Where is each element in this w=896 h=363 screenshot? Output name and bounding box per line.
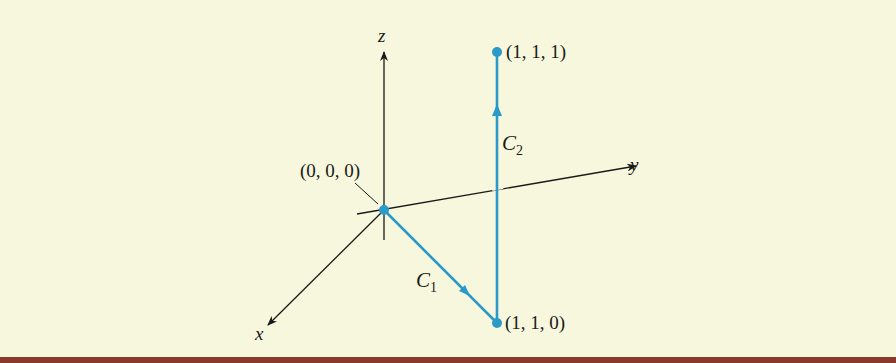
c2-label: C2 <box>502 131 523 158</box>
curve-c1 <box>384 210 497 323</box>
origin-leader-line <box>355 183 378 204</box>
c1-label: C1 <box>416 268 437 295</box>
point-1-1-0-label: (1, 1, 0) <box>505 312 565 334</box>
point-1-1-1 <box>492 47 502 57</box>
c2-label-name: C <box>502 131 517 155</box>
origin-label: (0, 0, 0) <box>300 160 360 182</box>
point-1-1-1-label: (1, 1, 1) <box>506 41 566 63</box>
z-axis-label: z <box>377 25 386 46</box>
y-axis-label: y <box>628 154 639 175</box>
x-axis <box>268 210 384 325</box>
c2-label-sub: 2 <box>516 143 523 158</box>
diagram-canvas: z y x (0, 0, 0) (1, 1, 1) (1, 1, 0) C1 C… <box>0 0 896 363</box>
bottom-rule <box>0 357 896 363</box>
c2-direction-arrow <box>492 104 502 116</box>
point-1-1-0 <box>492 318 502 328</box>
point-origin <box>379 205 389 215</box>
diagram-svg: z y x (0, 0, 0) (1, 1, 1) (1, 1, 0) C1 C… <box>0 0 896 363</box>
c1-label-name: C <box>416 268 431 292</box>
x-axis-label: x <box>254 323 264 344</box>
c1-label-sub: 1 <box>430 280 437 295</box>
